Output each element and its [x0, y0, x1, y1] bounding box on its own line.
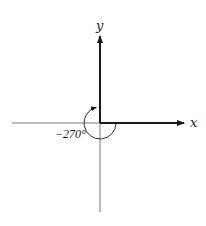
x-axis-label: x — [190, 115, 198, 130]
angle-diagram: y x −270° — [0, 0, 206, 226]
y-axis-label: y — [95, 18, 104, 33]
angle-label: −270° — [55, 127, 86, 141]
